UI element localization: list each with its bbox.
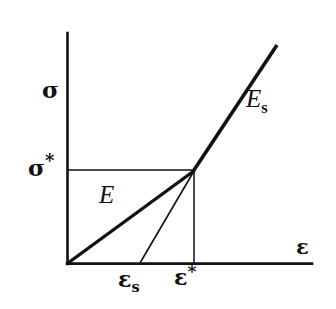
modulus-Es-base: E <box>246 85 261 112</box>
x-tick-label-epsilon-s: εs <box>118 268 140 290</box>
y-axis-label-sigma: σ <box>42 78 59 101</box>
annotation-modulus-E: E <box>99 182 114 207</box>
epsilon-s-subscript: s <box>131 278 139 295</box>
annotation-modulus-Es: Es <box>246 86 268 111</box>
y-tick-label-sigma-star: σ* <box>28 156 54 179</box>
modulus-E-line <box>68 171 195 264</box>
x-axis-label-epsilon: ε <box>296 236 309 257</box>
sigma-star-superscript: * <box>45 150 54 171</box>
modulus-Es-subscript: s <box>261 98 267 117</box>
stress-strain-diagram: σ σ* ε εs ε* E Es <box>0 0 336 309</box>
x-tick-label-epsilon-star: ε* <box>174 266 196 288</box>
epsilon-s-line <box>140 171 194 263</box>
epsilon-s-base: ε <box>118 266 131 292</box>
epsilon-star-superscript: * <box>187 261 196 281</box>
sigma-star-base: σ <box>28 154 45 181</box>
epsilon-star-base: ε <box>174 264 187 290</box>
